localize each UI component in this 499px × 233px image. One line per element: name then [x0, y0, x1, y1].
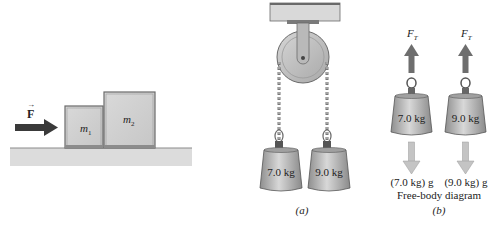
force-label: F: [27, 107, 34, 121]
gravity-label-right: (9.0 kg) g: [444, 176, 488, 189]
free-body-diagram: FT FT 7.0 kg 9.0 kg: [390, 27, 488, 217]
tension-label-left: FT: [406, 27, 419, 42]
weight-9kg-label: 9.0 kg: [315, 166, 343, 178]
weight-7kg-label: 7.0 kg: [267, 166, 295, 178]
physics-figure: F → m1 m2: [0, 0, 499, 233]
gravity-arrow-right-icon: [457, 142, 474, 174]
fbd-weight-7kg-label: 7.0 kg: [398, 112, 426, 124]
free-body-title: Free-body diagram: [397, 189, 481, 201]
floor: [10, 148, 192, 166]
tension-label-right: FT: [460, 27, 473, 42]
tension-arrow-right-icon: [458, 44, 473, 73]
blocks-on-floor-diagram: F → m1 m2: [10, 92, 192, 166]
force-arrow-icon: [15, 119, 58, 136]
pulley-diagram: 7.0 kg 9.0 kg (a): [260, 3, 350, 217]
caption-b: (b): [433, 204, 446, 217]
force-vector-mark: →: [27, 100, 35, 109]
tension-arrow-left-icon: [404, 44, 419, 73]
caption-a: (a): [296, 204, 309, 217]
ceiling-beam: [270, 3, 340, 21]
gravity-arrow-left-icon: [403, 142, 420, 174]
gravity-label-left: (7.0 kg) g: [390, 176, 434, 189]
fbd-weight-9kg-label: 9.0 kg: [452, 112, 480, 124]
